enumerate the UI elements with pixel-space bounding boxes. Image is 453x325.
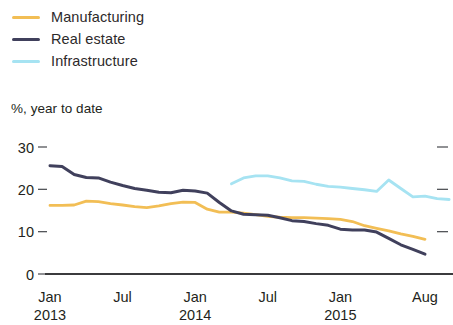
x-tick-label-year: 2015: [324, 307, 356, 323]
x-tick-label-month: Jul: [113, 289, 132, 305]
x-tick-label-year: 2014: [179, 307, 211, 323]
series-paths: [50, 166, 449, 254]
y-axis-right-ticks: [437, 147, 448, 274]
y-axis-left-ticks: [38, 147, 47, 274]
plot-area: 0102030 Jan2013JulJan2014JulJan2015Aug: [0, 0, 453, 325]
y-tick-label-0: 0: [26, 267, 34, 283]
x-tick-label-month: Jan: [329, 289, 352, 305]
x-axis-tick-labels: Jan2013JulJan2014JulJan2015Aug: [34, 289, 438, 323]
y-tick-label-30: 30: [18, 140, 34, 156]
x-tick-label-month: Jul: [258, 289, 277, 305]
x-tick-label-month: Jan: [183, 289, 206, 305]
y-axis-tick-labels: 0102030: [18, 140, 34, 283]
chart-figure: Manufacturing Real estate Infrastructure…: [0, 0, 453, 325]
series-line-real-estate: [50, 166, 425, 254]
x-tick-label-month: Aug: [412, 289, 438, 305]
x-tick-label-year: 2013: [34, 307, 66, 323]
series-line-infrastructure: [231, 176, 449, 200]
y-tick-label-10: 10: [18, 224, 34, 240]
x-tick-label-month: Jan: [38, 289, 61, 305]
line-chart-svg: 0102030 Jan2013JulJan2014JulJan2015Aug: [0, 0, 453, 325]
series-line-manufacturing: [50, 201, 425, 239]
y-tick-label-20: 20: [18, 182, 34, 198]
